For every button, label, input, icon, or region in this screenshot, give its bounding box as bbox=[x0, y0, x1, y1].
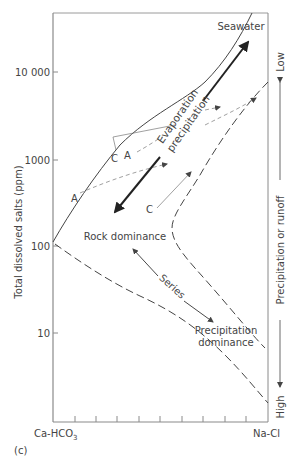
plot-frame bbox=[53, 13, 268, 422]
series-arrow-up bbox=[133, 249, 158, 276]
evaporation-label-group: Evaporation precipitation bbox=[153, 85, 211, 154]
gibbs-diagram: 10 000 1000 100 10 Total dissolved salts… bbox=[0, 0, 296, 461]
point-a1-label: A bbox=[71, 193, 78, 204]
path-c2-arrow bbox=[157, 172, 191, 208]
x-axis-ticks bbox=[75, 416, 246, 422]
series-arrow-down bbox=[184, 301, 213, 322]
evaporation-arrow-up bbox=[203, 42, 248, 101]
path-a2-arrow-upper bbox=[205, 107, 220, 110]
evaporation-arrow-down bbox=[115, 157, 160, 212]
point-c1-label: C bbox=[111, 153, 118, 164]
right-axis-label: Precipitation or runoff bbox=[275, 194, 286, 304]
y-tick-10: 10 bbox=[37, 328, 50, 339]
y-tick-10000: 10 000 bbox=[15, 67, 50, 78]
path-a1-arrow bbox=[80, 164, 167, 193]
right-axis-low-label: Low bbox=[275, 52, 286, 72]
precipitation-dominance-label-1: Precipitation bbox=[195, 325, 258, 336]
point-a2-label: A bbox=[124, 150, 131, 161]
right-axis-indicator: Precipitation or runoff Low High bbox=[275, 52, 286, 418]
y-axis-label: Total dissolved salts (ppm) bbox=[13, 165, 24, 299]
y-axis-ticks bbox=[53, 72, 58, 333]
x-axis-right-label: Na-Cl bbox=[253, 428, 280, 439]
path-a2-arrow-long bbox=[205, 98, 256, 125]
precipitation-dominance-label-2: dominance bbox=[198, 337, 253, 348]
x-axis-left-label: Ca-HCO3 bbox=[34, 428, 78, 442]
rock-dominance-label: Rock dominance bbox=[84, 231, 167, 242]
seawater-label: Seawater bbox=[217, 21, 265, 32]
lower-dashed-boundary bbox=[55, 244, 268, 403]
y-tick-1000: 1000 bbox=[25, 155, 50, 166]
panel-label: (c) bbox=[14, 445, 27, 456]
right-axis-high-label: High bbox=[275, 396, 286, 419]
series-label: Series bbox=[157, 272, 187, 301]
y-tick-100: 100 bbox=[31, 241, 50, 252]
point-c2-label: C bbox=[146, 204, 153, 215]
